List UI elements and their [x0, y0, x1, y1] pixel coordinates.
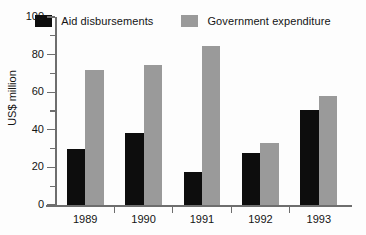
- y-axis-tick-label: 100: [4, 11, 44, 22]
- x-axis-tick: [289, 206, 290, 213]
- bar-aid-1992: [242, 153, 260, 205]
- y-axis-tick-minor: [50, 35, 55, 36]
- x-axis-tick-label-1991: 1991: [172, 214, 232, 225]
- y-axis-tick-major: [47, 167, 55, 168]
- x-axis-tick-label-1993: 1993: [289, 214, 349, 225]
- x-axis-tick: [114, 206, 115, 213]
- y-axis-tick-major: [47, 204, 55, 205]
- y-axis-tick-major: [47, 92, 55, 93]
- bar-government-1990: [144, 65, 162, 205]
- y-axis-tick-label: 0: [4, 199, 44, 210]
- y-axis-tick-major: [47, 129, 55, 130]
- bar-government-1992: [260, 143, 278, 205]
- bar-aid-1993: [300, 110, 318, 205]
- bar-government-1991: [202, 46, 220, 205]
- y-axis-tick-minor: [50, 73, 55, 74]
- bar-government-1989: [85, 70, 103, 205]
- x-axis-tick-label-1989: 1989: [55, 214, 115, 225]
- y-axis-tick-minor: [50, 186, 55, 187]
- y-axis-tick-major: [47, 54, 55, 55]
- x-axis-tick-label-1992: 1992: [230, 214, 290, 225]
- x-axis-line: [46, 205, 352, 207]
- bar-government-1993: [319, 96, 337, 205]
- y-axis-tick-minor: [50, 148, 55, 149]
- bar-aid-1989: [67, 149, 85, 205]
- x-axis-tick: [231, 206, 232, 213]
- y-axis-tick-minor: [50, 110, 55, 111]
- x-axis-tick: [172, 206, 173, 213]
- plot-area: [56, 17, 348, 205]
- bar-aid-1990: [125, 133, 143, 205]
- bar-aid-1991: [184, 172, 202, 205]
- y-axis-tick-label: 60: [4, 86, 44, 97]
- bar-chart: Aid disbursements Government expenditure…: [0, 0, 366, 235]
- y-axis-tick-major: [47, 16, 55, 17]
- y-axis-tick-label: 20: [4, 161, 44, 172]
- x-axis-tick-label-1990: 1990: [114, 214, 174, 225]
- y-axis-tick-label: 80: [4, 49, 44, 60]
- y-axis-tick-label: 40: [4, 124, 44, 135]
